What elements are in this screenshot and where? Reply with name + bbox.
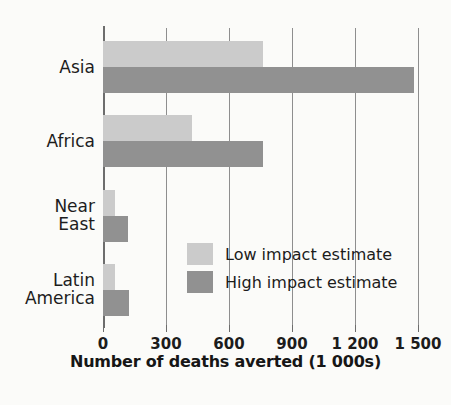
bar-asia-low [103, 41, 263, 67]
tick-label-900: 900 [276, 335, 307, 353]
legend-item-high: High impact estimate [187, 268, 397, 296]
bar-africa-high [103, 141, 263, 167]
legend-label-low: Low impact estimate [225, 245, 392, 264]
tick-1500 [418, 325, 419, 332]
bar-africa-low [103, 115, 192, 141]
bar-near-east-low [103, 190, 115, 216]
category-label-line: America [0, 289, 95, 307]
bar-latin-america-high [103, 290, 129, 316]
tick-900 [292, 325, 293, 332]
tick-0 [103, 325, 104, 332]
legend-swatch-high-icon [187, 271, 213, 293]
tick-300 [166, 325, 167, 332]
tick-label-1500: 1 500 [395, 335, 442, 353]
bar-asia-high [103, 67, 414, 93]
bar-near-east-high [103, 216, 128, 242]
category-label-line: Asia [0, 58, 95, 76]
legend-item-low: Low impact estimate [187, 240, 397, 268]
category-label-line: Latin [0, 271, 95, 289]
legend-swatch-low-icon [187, 243, 213, 265]
tick-600 [229, 325, 230, 332]
chart-legend: Low impact estimate High impact estimate [187, 240, 397, 296]
tick-label-600: 600 [213, 335, 244, 353]
tick-label-300: 300 [150, 335, 181, 353]
category-label-latin-america: LatinAmerica [0, 271, 95, 308]
category-label-africa: Africa [0, 132, 95, 150]
category-label-near-east: NearEast [0, 197, 95, 234]
bar-chart: 03006009001 2001 500 AsiaAfricaNearEastL… [0, 0, 451, 405]
category-label-line: East [0, 215, 95, 233]
tick-1200 [355, 325, 356, 332]
tick-label-1200: 1 200 [332, 335, 379, 353]
gridline-1500 [418, 28, 419, 325]
x-axis-title: Number of deaths averted (1 000s) [0, 352, 451, 371]
category-label-asia: Asia [0, 58, 95, 76]
tick-label-0: 0 [98, 335, 108, 353]
category-label-line: Africa [0, 132, 95, 150]
bar-latin-america-low [103, 264, 115, 290]
category-label-line: Near [0, 197, 95, 215]
legend-label-high: High impact estimate [225, 273, 397, 292]
